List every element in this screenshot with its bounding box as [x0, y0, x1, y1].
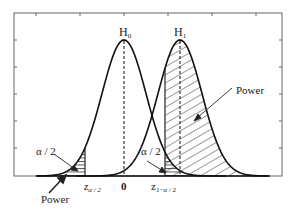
z-one-minus-alpha-half-label: z1−α / 2	[151, 181, 176, 194]
h1-label: H1	[174, 26, 186, 40]
h0-label: H0	[119, 26, 131, 40]
zero-label: 0	[121, 181, 127, 192]
alpha-label-right: α / 2	[141, 146, 161, 157]
z-alpha-half-label: zα / 2	[84, 181, 101, 194]
z-right-sub: 1−α / 2	[156, 186, 176, 194]
alpha-label-left: α / 2	[36, 146, 56, 157]
h1-label-main: H	[174, 25, 183, 39]
power-diagram	[0, 0, 290, 209]
power-left-arrow	[49, 175, 66, 193]
h1-label-sub: 1	[183, 32, 187, 40]
alpha-left-arrow	[54, 154, 78, 171]
alpha-region-left	[60, 148, 85, 176]
power-label-left: Power	[41, 194, 69, 205]
alpha-right-arrow	[147, 161, 166, 173]
h0-label-sub: 0	[128, 32, 132, 40]
z-left-sub: α / 2	[88, 186, 101, 194]
h0-label-main: H	[119, 25, 128, 39]
power-label-right: Power	[236, 85, 264, 96]
